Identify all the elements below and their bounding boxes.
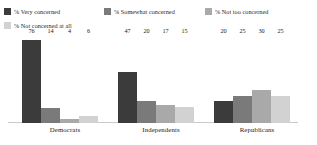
bar-group-republicans: 20 25 30 25 Republicans [214,36,300,123]
bar-group-independents: 47 20 17 15 Independents [118,36,204,123]
legend-label-very-concerned: % Very concerned [14,8,60,15]
bar-slot-independents-not-too-concerned: 17 [156,36,175,123]
bar-value-independents-somewhat-concerned: 20 [137,27,156,36]
legend-swatch-very-concerned [4,8,11,15]
legend-item-not-too-concerned: % Not too concerned [205,8,268,15]
category-label-democrats: Democrats [22,123,108,137]
bar-value-republicans-not-concerned-at-all: 25 [271,27,290,36]
legend-swatch-not-concerned-at-all [4,22,11,29]
bar-value-republicans-very-concerned: 20 [214,27,233,36]
bar-independents-not-concerned-at-all [175,107,194,123]
chart-plot-area: 76 14 4 6 Democrats [0,36,317,145]
bar-slot-democrats-not-too-concerned: 4 [60,36,79,123]
bar-independents-not-too-concerned [156,105,175,123]
grouped-bar-chart: % Very concerned % Somewhat concerned % … [0,0,317,145]
bar-republicans-not-too-concerned [252,90,271,123]
bar-group-democrats: 76 14 4 6 Democrats [22,36,108,123]
bar-slot-democrats-very-concerned: 76 [22,36,41,123]
bar-republicans-somewhat-concerned [233,96,252,123]
legend-item-somewhat-concerned: % Somewhat concerned [104,8,175,15]
legend-label-not-too-concerned: % Not too concerned [215,8,268,15]
bars-independents: 47 20 17 15 [118,36,204,123]
bar-value-independents-not-too-concerned: 17 [156,27,175,36]
bar-slot-republicans-very-concerned: 20 [214,36,233,123]
bar-independents-very-concerned [118,72,137,123]
bar-republicans-not-concerned-at-all [271,96,290,123]
category-label-republicans: Republicans [214,123,300,137]
bars-democrats: 76 14 4 6 [22,36,108,123]
bar-value-republicans-not-too-concerned: 30 [252,27,271,36]
bar-value-republicans-somewhat-concerned: 25 [233,27,252,36]
bar-slot-republicans-not-concerned-at-all: 25 [271,36,290,123]
bars-republicans: 20 25 30 25 [214,36,300,123]
bar-value-democrats-very-concerned: 76 [22,27,41,36]
bar-independents-somewhat-concerned [137,101,156,123]
bar-slot-republicans-somewhat-concerned: 25 [233,36,252,123]
bar-democrats-very-concerned [22,40,41,123]
bar-value-democrats-not-concerned-at-all: 6 [79,27,98,36]
legend-item-very-concerned: % Very concerned [4,8,60,15]
bar-democrats-somewhat-concerned [41,108,60,123]
bar-value-independents-very-concerned: 47 [118,27,137,36]
bar-slot-independents-somewhat-concerned: 20 [137,36,156,123]
category-label-independents: Independents [118,123,204,137]
legend-swatch-not-too-concerned [205,8,212,15]
bar-slot-democrats-somewhat-concerned: 14 [41,36,60,123]
bar-value-democrats-not-too-concerned: 4 [60,27,79,36]
bar-slot-republicans-not-too-concerned: 30 [252,36,271,123]
bar-slot-democrats-not-concerned-at-all: 6 [79,36,98,123]
bar-value-democrats-somewhat-concerned: 14 [41,27,60,36]
bar-republicans-very-concerned [214,101,233,123]
bar-slot-independents-not-concerned-at-all: 15 [175,36,194,123]
bar-slot-independents-very-concerned: 47 [118,36,137,123]
legend-swatch-somewhat-concerned [104,8,111,15]
bar-value-independents-not-concerned-at-all: 15 [175,27,194,36]
legend-label-somewhat-concerned: % Somewhat concerned [114,8,175,15]
